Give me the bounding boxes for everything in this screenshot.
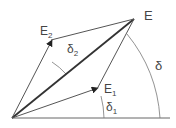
arc-delta bbox=[127, 34, 160, 118]
label-delta2: δ2 bbox=[67, 42, 79, 58]
label-delta1: δ1 bbox=[106, 100, 118, 116]
vector-E bbox=[12, 19, 134, 118]
phasor-diagram: E E2 E1 δ δ1 δ2 bbox=[0, 0, 176, 128]
label-E1: E1 bbox=[104, 82, 117, 98]
label-E2: E2 bbox=[40, 24, 53, 40]
arc-delta1 bbox=[101, 96, 104, 118]
label-E: E bbox=[144, 8, 153, 23]
arc-delta2 bbox=[52, 62, 66, 74]
label-delta: δ bbox=[155, 58, 162, 73]
line-E1-E bbox=[97, 19, 134, 89]
